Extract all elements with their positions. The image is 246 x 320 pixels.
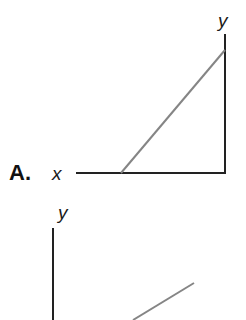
option-a-graph-line — [121, 50, 225, 173]
option-b-graph[interactable]: y — [53, 202, 194, 320]
option-a-x-axis-label: x — [51, 163, 63, 184]
option-b-graph-line — [133, 283, 194, 320]
option-a-y-axis-label: y — [216, 10, 229, 31]
answer-choices-diagram: y A. x y — [0, 0, 246, 320]
option-a-letter: A. — [9, 160, 31, 185]
option-b-y-axis-label: y — [56, 202, 69, 223]
option-a-graph[interactable]: y A. x — [9, 10, 229, 185]
